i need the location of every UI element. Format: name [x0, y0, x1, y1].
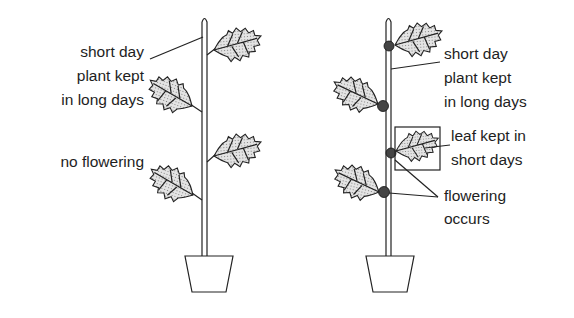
right-condition-line3: in long days: [444, 93, 527, 110]
flower-bud-upper: [378, 101, 389, 112]
right-condition-pointer: [391, 62, 440, 69]
leaf-label-line2: short days: [451, 151, 523, 168]
right-labels: short day plant kept in long days leaf k…: [444, 45, 527, 227]
right-leaf-top-right: [393, 21, 444, 58]
left-result-label: no flowering: [60, 153, 144, 170]
left-condition-line2: plant kept: [77, 67, 145, 84]
left-condition-line1: short day: [80, 43, 144, 60]
left-leaf-top-right: [207, 26, 263, 63]
flower-bud-top: [384, 41, 394, 51]
right-leaf-lower-left: [329, 160, 384, 204]
left-plant: [142, 19, 263, 293]
flowering-pointer-lower: [389, 193, 438, 197]
right-leaf-upper-left: [328, 72, 383, 116]
flower-bud-lower: [379, 187, 390, 198]
right-plant: [328, 19, 450, 293]
leaf-label-line1: leaf kept in: [451, 127, 526, 144]
left-pot: [185, 256, 233, 292]
left-leaf-lower-left: [143, 160, 202, 207]
diagram-canvas: short day plant kept in long days no flo…: [0, 0, 574, 318]
right-pot: [366, 256, 414, 292]
result-line1: flowering: [444, 187, 506, 204]
result-line2: occurs: [444, 210, 490, 227]
left-stem: [202, 19, 207, 257]
left-condition-line3: in long days: [61, 91, 144, 108]
left-leaf-mid-right: [207, 132, 263, 169]
left-leaf-upper-left: [142, 71, 202, 118]
left-label-pointer: [150, 37, 203, 59]
right-leaf-boxed: [394, 129, 440, 162]
right-stem: [386, 19, 391, 257]
right-condition-line2: plant kept: [444, 69, 512, 86]
flowering-pointer-upper: [395, 160, 438, 197]
left-labels: short day plant kept in long days no flo…: [60, 43, 144, 170]
right-condition-line1: short day: [444, 45, 508, 62]
